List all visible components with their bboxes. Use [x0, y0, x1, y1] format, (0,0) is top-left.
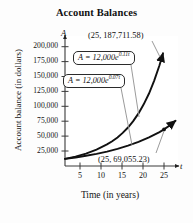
callout-high-exponent: 0.11t	[119, 51, 130, 57]
callout-low-equation: A = 12,000e	[68, 76, 109, 85]
callout-equation-high-rate: A = 12,000e0.11t	[73, 51, 135, 65]
annotation-bottom-point: (25, 69,055.23)	[98, 155, 150, 164]
annotation-top-point: (25, 187,711.58)	[88, 31, 144, 40]
datapoint-marker-low	[162, 127, 166, 131]
chart-figure: Account Balances Account balance (in dol…	[0, 0, 193, 223]
callout-low-exponent: 0.07t	[109, 74, 120, 80]
callout-equation-low-rate: A = 12,000e0.07t	[63, 74, 125, 88]
callout-high-equation: A = 12,000e	[78, 53, 119, 62]
